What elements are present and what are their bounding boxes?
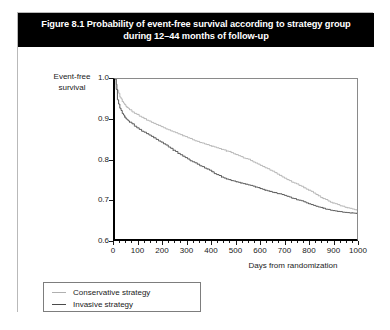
x-minor-tick-mark	[199, 241, 200, 243]
figure-card: Figure 8.1 Probability of event-free sur…	[17, 12, 373, 312]
x-minor-tick-mark	[272, 241, 273, 243]
y-tick-label: 0.9	[85, 114, 109, 123]
legend-label: Invasive strategy	[73, 300, 133, 309]
x-tick-mark	[236, 241, 237, 245]
survival-curve-conservative	[115, 79, 357, 210]
legend-item: Invasive strategy	[52, 299, 200, 310]
figure-title: Figure 8.1 Probability of event-free sur…	[32, 18, 360, 42]
x-minor-tick-mark	[180, 241, 181, 243]
x-minor-tick-mark	[303, 241, 304, 243]
y-tick-label: 0.6	[85, 236, 109, 245]
x-tick-mark	[113, 241, 114, 245]
x-minor-tick-mark	[321, 241, 322, 243]
x-minor-tick-mark	[297, 241, 298, 243]
legend-line-swatch	[52, 292, 66, 293]
x-axis-title: Days from randomization	[218, 261, 368, 270]
y-tick-label: 0.7	[85, 195, 109, 204]
x-minor-tick-mark	[346, 241, 347, 243]
plot-frame	[113, 78, 358, 241]
x-minor-tick-mark	[242, 241, 243, 243]
x-tick-mark	[358, 241, 359, 245]
y-axis-tick-labels: 0.60.70.80.91.0	[81, 78, 109, 241]
x-minor-tick-mark	[168, 241, 169, 243]
x-minor-tick-mark	[327, 241, 328, 243]
x-tick-mark	[334, 241, 335, 245]
x-minor-tick-mark	[266, 241, 267, 243]
survival-curve-invasive	[115, 79, 357, 214]
x-minor-tick-mark	[119, 241, 120, 243]
x-tick-label: 1000	[338, 246, 378, 255]
x-minor-tick-mark	[125, 241, 126, 243]
x-tick-mark	[211, 241, 212, 245]
x-minor-tick-mark	[254, 241, 255, 243]
x-minor-tick-mark	[131, 241, 132, 243]
x-tick-mark	[138, 241, 139, 245]
x-minor-tick-mark	[205, 241, 206, 243]
x-minor-tick-mark	[144, 241, 145, 243]
x-tick-mark	[260, 241, 261, 245]
x-tick-mark	[187, 241, 188, 245]
legend-label: Conservative strategy	[73, 288, 150, 297]
x-minor-tick-mark	[278, 241, 279, 243]
x-minor-tick-mark	[223, 241, 224, 243]
x-tick-mark	[285, 241, 286, 245]
x-minor-tick-mark	[248, 241, 249, 243]
legend-line-swatch	[52, 304, 66, 305]
x-minor-tick-mark	[352, 241, 353, 243]
x-minor-tick-mark	[156, 241, 157, 243]
x-minor-tick-mark	[291, 241, 292, 243]
x-minor-tick-mark	[217, 241, 218, 243]
chart-legend: Conservative strategyInvasive strategy	[43, 282, 201, 312]
x-tick-mark	[309, 241, 310, 245]
x-minor-tick-mark	[150, 241, 151, 243]
x-minor-tick-mark	[229, 241, 230, 243]
y-tick-label: 1.0	[85, 73, 109, 82]
x-minor-tick-mark	[315, 241, 316, 243]
figure-title-bar: Figure 8.1 Probability of event-free sur…	[18, 13, 374, 47]
y-tick-label: 0.8	[85, 155, 109, 164]
x-minor-tick-mark	[193, 241, 194, 243]
x-axis-tick-labels: 01002003004005006007008009001000	[113, 246, 358, 258]
x-tick-mark	[162, 241, 163, 245]
x-minor-tick-mark	[340, 241, 341, 243]
legend-item: Conservative strategy	[52, 287, 200, 298]
survival-curves	[115, 79, 357, 239]
x-minor-tick-mark	[174, 241, 175, 243]
plot-area: Event-free survival 0.60.70.80.91.0 0100…	[18, 47, 374, 312]
